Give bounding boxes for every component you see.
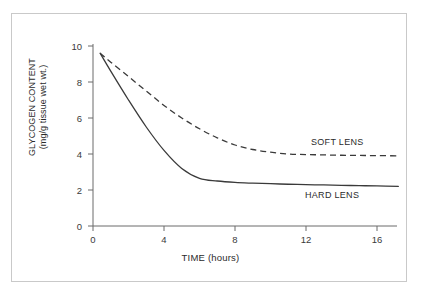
y-tick-label-4: 4 xyxy=(60,149,82,160)
x-axis-title: TIME (hours) xyxy=(0,252,421,263)
x-tick-label-16: 16 xyxy=(365,234,389,245)
x-tick-label-12: 12 xyxy=(294,234,318,245)
x-tick-label-4: 4 xyxy=(152,234,176,245)
series-label-hard-lens: HARD LENS xyxy=(305,190,359,200)
y-tick-label-6: 6 xyxy=(60,113,82,124)
y-axis-title: GLYCOGEN CONTENT (mg/g tissue wet wt.) xyxy=(27,27,49,187)
y-axis-title-line1: GLYCOGEN CONTENT xyxy=(27,27,38,187)
x-tick-label-8: 8 xyxy=(223,234,247,245)
y-tick-label-0: 0 xyxy=(60,221,82,232)
y-tick-label-8: 8 xyxy=(60,77,82,88)
series-line-hard-lens xyxy=(100,53,398,186)
y-axis-ticks xyxy=(88,46,93,226)
y-axis-title-line2: (mg/g tissue wet wt.) xyxy=(38,27,49,187)
x-axis-ticks xyxy=(93,226,377,231)
y-tick-label-10: 10 xyxy=(60,41,82,52)
series-label-soft-lens: SOFT LENS xyxy=(311,137,364,147)
x-tick-label-0: 0 xyxy=(81,234,105,245)
y-tick-label-2: 2 xyxy=(60,185,82,196)
chart-figure: 10 8 6 4 2 0 0 4 8 12 16 TIME (hours) GL… xyxy=(0,0,421,298)
